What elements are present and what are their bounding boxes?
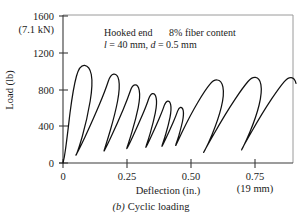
- figure-caption-prefix: (b): [113, 201, 126, 213]
- x-tick-label-0: 0: [60, 171, 65, 182]
- y-tick-label-0: 0: [49, 158, 54, 169]
- figure-caption: (b)Cyclic loading: [113, 201, 191, 213]
- x-tick-label-050: 0.50: [182, 171, 200, 182]
- annotation-diameter-value: = 0.5 mm: [155, 39, 196, 50]
- x-axis-title: Deflection (in.): [136, 185, 201, 197]
- annotation-fiber-content: 8% fiber content: [169, 27, 236, 38]
- y-axis-title: Load (lb): [4, 70, 16, 110]
- figure-cyclic-loading: 1600 (7.1 kN) 1200 800 400 0 Load (lb) 0…: [0, 0, 303, 220]
- y-tick-label-1600: 1600: [33, 11, 54, 22]
- y-axis-sublabel-kn: (7.1 kN): [18, 24, 54, 36]
- figure-caption-text: Cyclic loading: [128, 201, 190, 212]
- annotation-length-value: = 40 mm,: [107, 39, 151, 50]
- y-axis-tick-labels: 1600 (7.1 kN) 1200 800 400 0: [18, 11, 54, 169]
- y-tick-label-400: 400: [38, 121, 54, 132]
- y-tick-label-1200: 1200: [33, 48, 54, 59]
- svg-text:Hooked end 8% fiber cont: Hooked end 8% fiber content: [104, 27, 236, 38]
- chart-svg: 1600 (7.1 kN) 1200 800 400 0 Load (lb) 0…: [0, 0, 303, 220]
- y-axis-title-group: Load (lb): [4, 70, 16, 110]
- annotation-hooked-end: Hooked end: [104, 27, 153, 38]
- cyclic-load-deflection-curve: [63, 65, 296, 163]
- x-tick-label-025: 0.25: [118, 171, 136, 182]
- x-tick-label-075: 0.75: [246, 171, 264, 182]
- plot-annotation: Hooked end 8% fiber content l = 40 mm, d…: [104, 27, 236, 50]
- svg-text:l = 40 mm, d = 0.5 mm: l = 40 mm, d = 0.5 mm: [104, 39, 197, 50]
- x-axis-sublabel-mm: (19 mm): [237, 183, 274, 195]
- y-tick-label-800: 800: [38, 85, 54, 96]
- data-curve-group: [63, 65, 296, 163]
